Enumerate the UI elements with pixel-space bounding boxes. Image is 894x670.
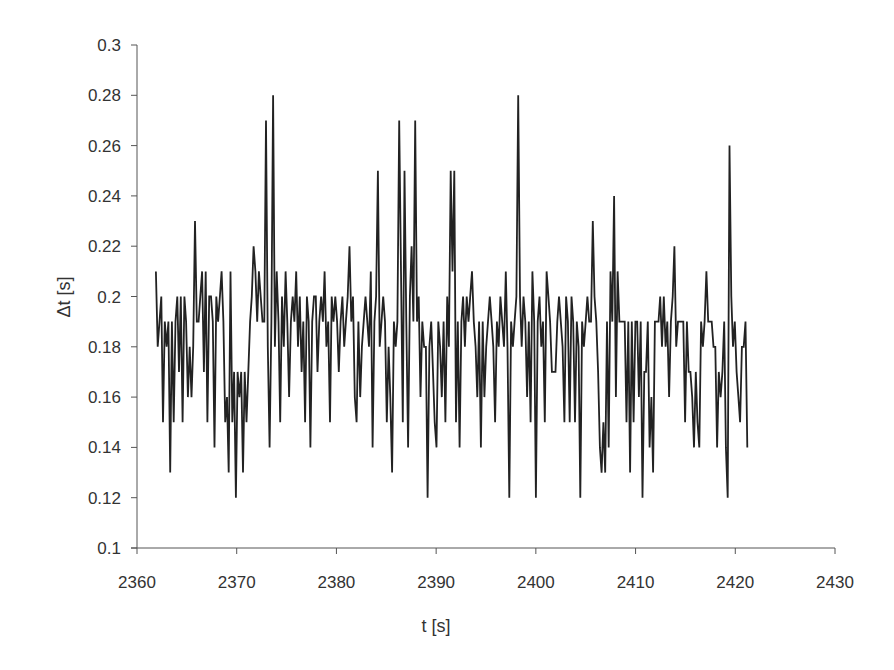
y-tick-label: 0.12: [88, 489, 121, 508]
x-tick-label: 2400: [517, 573, 555, 592]
line-chart: 0.10.120.140.160.180.20.220.240.260.280.…: [0, 0, 894, 670]
y-tick-label: 0.18: [88, 338, 121, 357]
x-tick-label: 2380: [318, 573, 356, 592]
y-tick-label: 0.24: [88, 187, 121, 206]
x-tick-label: 2410: [617, 573, 655, 592]
y-tick-label: 0.1: [97, 539, 121, 558]
x-tick-label: 2360: [118, 573, 156, 592]
x-tick-label: 2390: [417, 573, 455, 592]
y-tick-label: 0.28: [88, 86, 121, 105]
data-series-line: [156, 95, 747, 497]
series-line: [156, 95, 747, 497]
y-tick-label: 0.16: [88, 388, 121, 407]
y-axis: 0.10.120.140.160.180.20.220.240.260.280.…: [88, 36, 137, 558]
y-tick-label: 0.2: [97, 288, 121, 307]
x-tick-label: 2370: [218, 573, 256, 592]
y-tick-label: 0.26: [88, 137, 121, 156]
y-tick-label: 0.22: [88, 237, 121, 256]
x-axis-title: t [s]: [421, 616, 450, 636]
x-axis: 23602370238023902400241024202430: [118, 548, 854, 592]
y-tick-label: 0.3: [97, 36, 121, 55]
y-axis-title: Δt [s]: [54, 276, 74, 317]
y-tick-label: 0.14: [88, 438, 121, 457]
x-tick-label: 2430: [816, 573, 854, 592]
x-tick-label: 2420: [716, 573, 754, 592]
